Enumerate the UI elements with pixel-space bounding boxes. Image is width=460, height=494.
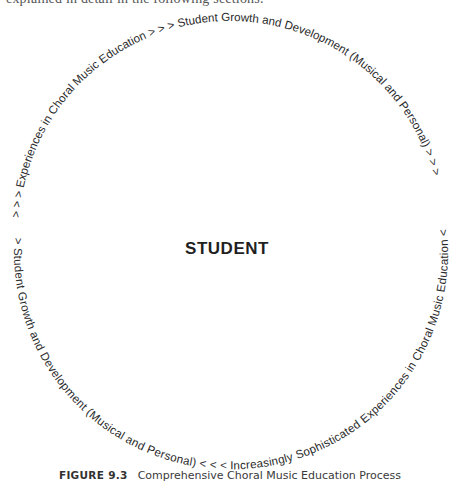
center-label-student: STUDENT: [185, 239, 269, 258]
inner-arc-text: > Student Growth and Development (Musica…: [12, 229, 450, 472]
figure-title: Comprehensive Choral Music Education Pro…: [138, 469, 401, 482]
figure-caption: FIGURE 9.3Comprehensive Choral Music Edu…: [0, 469, 460, 482]
outer-arc-text: > > > Experiences in Choral Music Educat…: [8, 10, 444, 218]
figure-number: FIGURE 9.3: [59, 469, 128, 481]
inner-arc-textpath: > Student Growth and Development (Musica…: [12, 229, 450, 472]
process-cycle-diagram: > > > Experiences in Choral Music Educat…: [0, 0, 460, 494]
outer-arc-textpath: > > > Experiences in Choral Music Educat…: [8, 10, 444, 218]
